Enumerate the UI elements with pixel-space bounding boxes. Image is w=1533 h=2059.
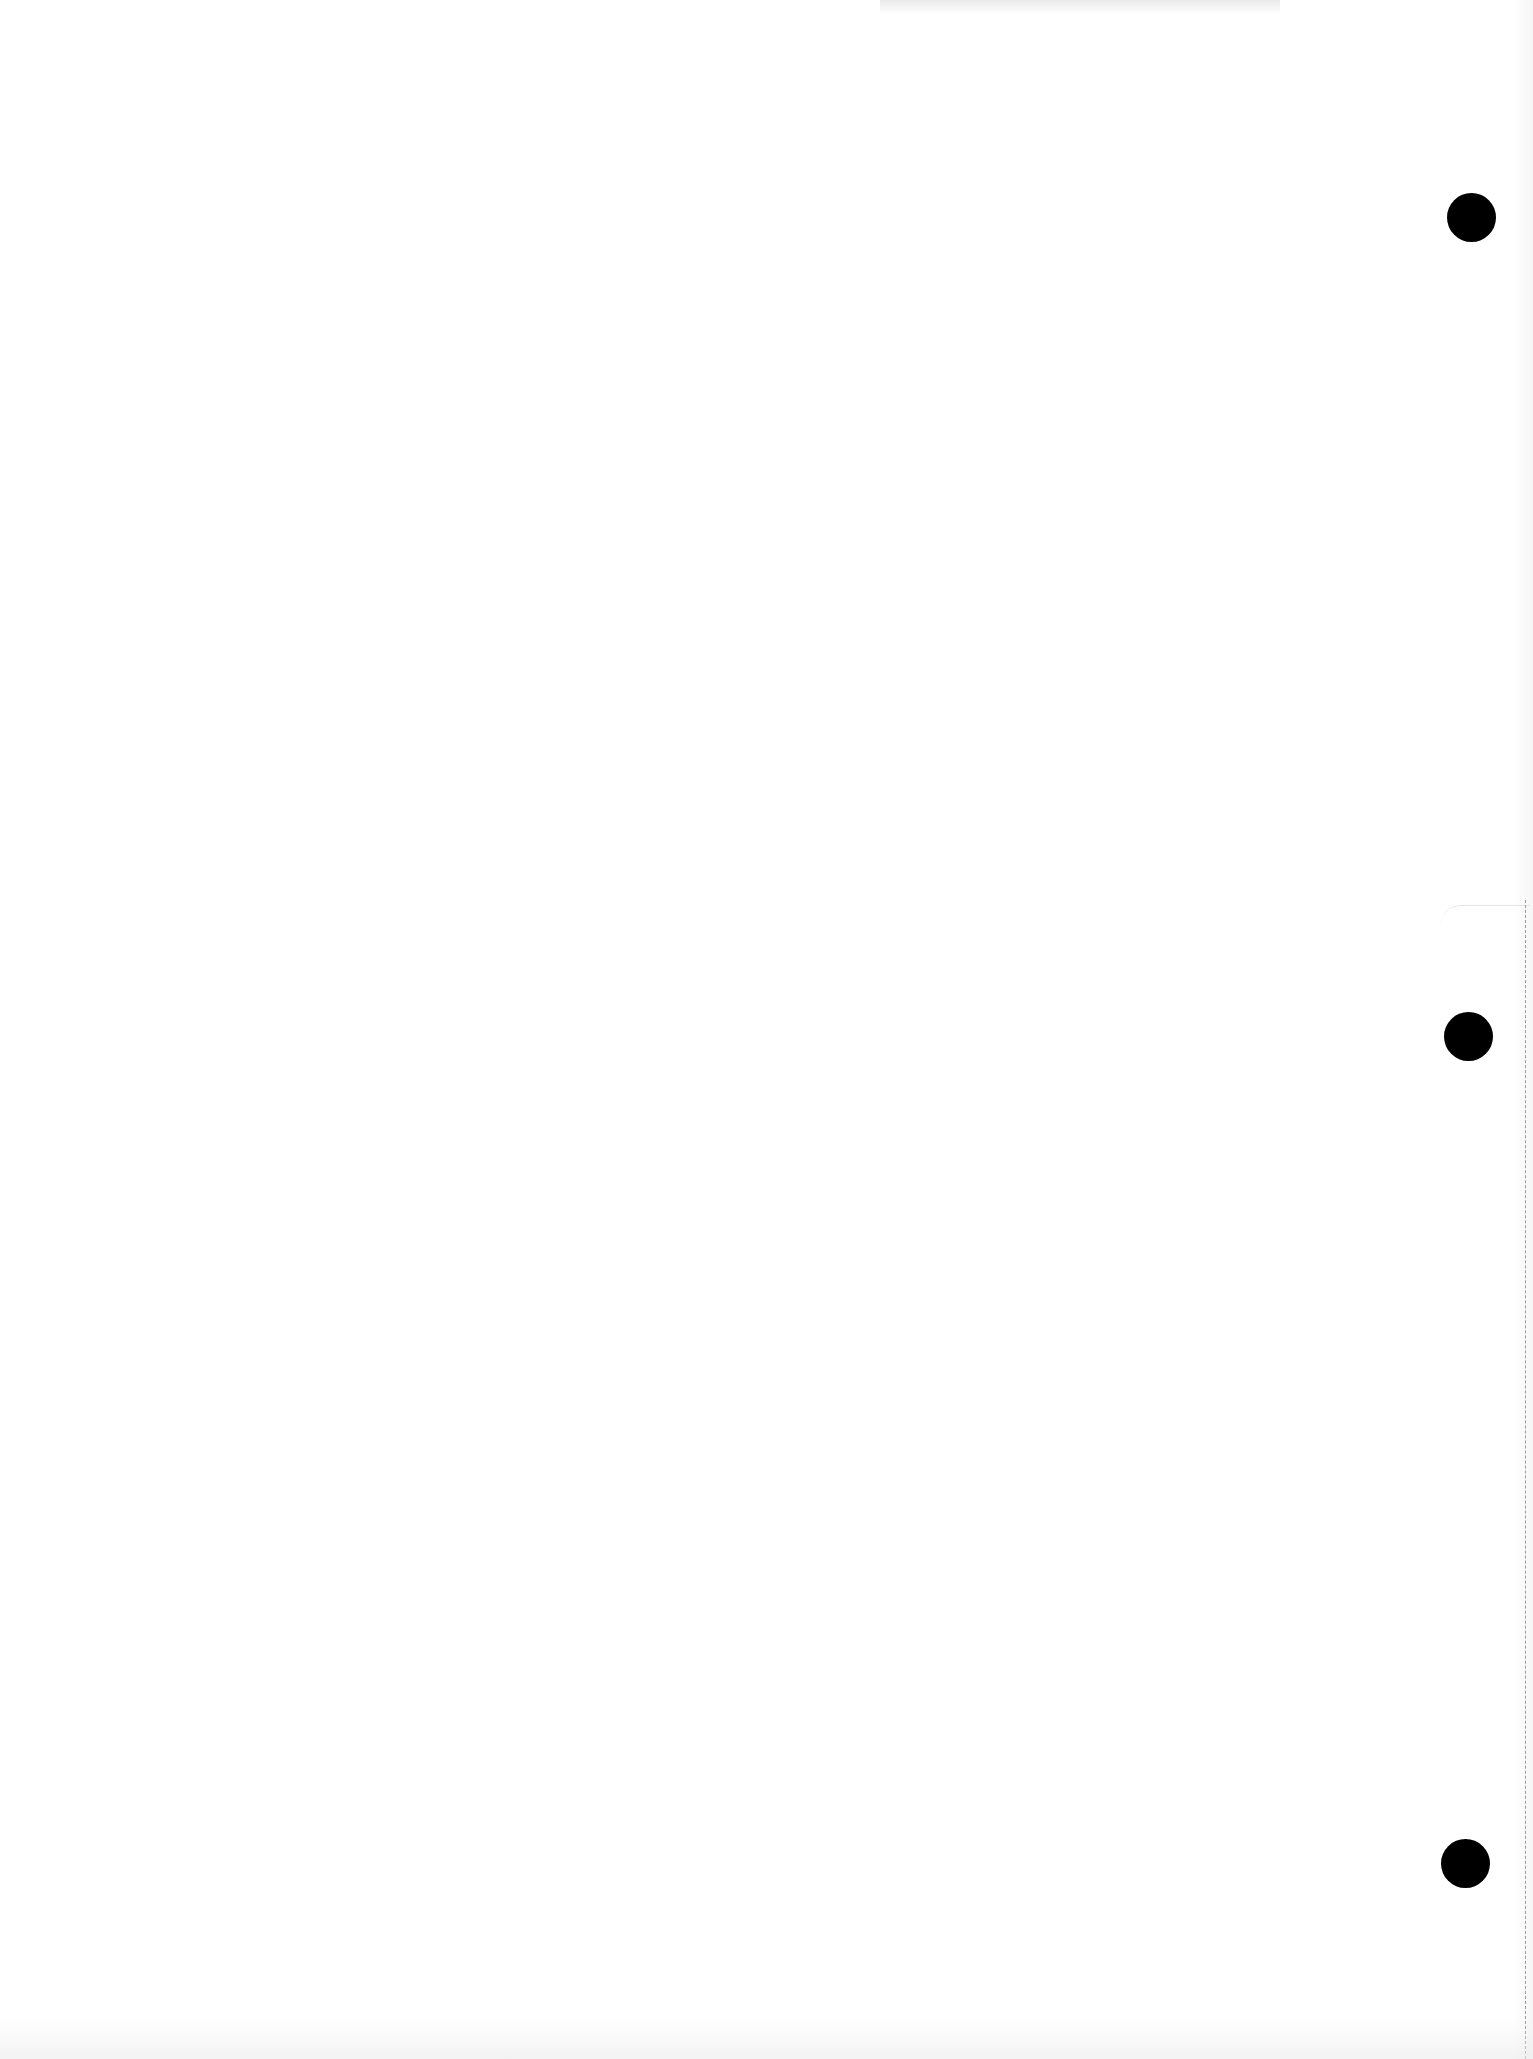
scan-noise-bottom <box>0 2019 1533 2059</box>
punch-hole-bottom <box>1441 1839 1490 1888</box>
page-edge-shadow <box>1513 0 1533 2059</box>
punch-hole-middle <box>1444 1012 1493 1061</box>
scan-noise-top <box>880 0 1280 14</box>
punch-hole-top <box>1447 193 1496 242</box>
blank-page <box>0 0 1533 2059</box>
perforation-line <box>1525 900 1526 2059</box>
torn-edge-mark <box>1440 905 1530 926</box>
